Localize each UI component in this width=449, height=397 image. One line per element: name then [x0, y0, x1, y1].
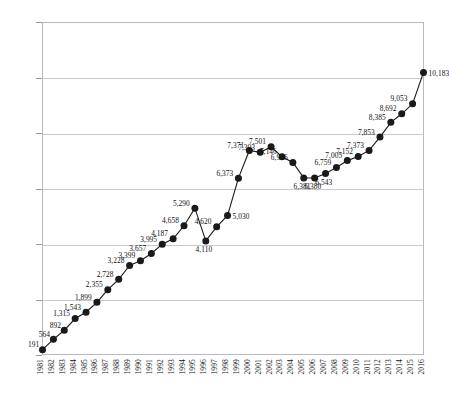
data-point-marker: [420, 69, 427, 76]
data-point-marker: [115, 276, 122, 283]
data-point-label: 5,290: [173, 200, 190, 207]
data-point-marker: [170, 235, 177, 242]
y-tick-mark: [36, 355, 42, 356]
data-point-label: 2,728: [97, 271, 114, 278]
x-tick-label: 2016: [418, 359, 429, 375]
data-point-marker: [148, 250, 155, 257]
data-point-marker: [126, 262, 133, 269]
data-point-marker: [289, 159, 296, 166]
data-point-label: 5,030: [233, 213, 250, 220]
data-point-label: 1,899: [75, 294, 92, 301]
data-point-marker: [137, 257, 144, 264]
data-point-label: 10,183: [429, 70, 449, 77]
data-point-marker: [398, 110, 405, 117]
data-point-label: 892: [50, 322, 61, 329]
data-point-label: 6,936: [271, 154, 288, 161]
data-point-marker: [355, 153, 362, 160]
data-point-marker: [61, 327, 68, 334]
data-point-label: 4,658: [162, 217, 179, 224]
data-point-label: 9,053: [391, 95, 408, 102]
data-point-label: 2,355: [86, 281, 103, 288]
data-point-label: 3,657: [129, 245, 146, 252]
data-point-label: 4,187: [151, 230, 168, 237]
data-point-label: 6,373: [216, 170, 233, 177]
data-point-label: 4,620: [195, 218, 212, 225]
data-point-marker: [104, 286, 111, 293]
data-point-marker: [213, 223, 220, 230]
data-series: [42, 22, 424, 355]
data-point-label: 8,692: [380, 105, 397, 112]
data-point-marker: [50, 336, 57, 343]
data-point-label: 8,385: [369, 114, 386, 121]
data-point-label: 4,110: [196, 246, 213, 253]
x-tick-label: 1984: [70, 359, 81, 375]
data-point-label: 7,853: [358, 129, 375, 136]
x-tick-label: 1993: [168, 359, 179, 375]
data-point-label: 3,399: [118, 252, 135, 259]
data-point-marker: [93, 299, 100, 306]
data-point-marker: [39, 346, 46, 353]
chart-title: [0, 0, 436, 5]
data-point-label: 564: [39, 331, 50, 338]
data-point-marker: [235, 175, 242, 182]
data-point-label: 6,759: [314, 159, 331, 166]
data-point-marker: [376, 134, 383, 141]
data-point-marker: [224, 212, 231, 219]
data-point-marker: [181, 222, 188, 229]
data-point-label: 191: [28, 341, 39, 348]
data-point-label: 6,543: [315, 179, 332, 186]
data-point-label: 7,501: [249, 138, 266, 145]
data-point-label: 1,543: [64, 304, 81, 311]
data-point-marker: [202, 237, 209, 244]
data-point-marker: [344, 157, 351, 164]
data-point-marker: [72, 315, 79, 322]
data-point-marker: [387, 119, 394, 126]
data-point-marker: [333, 164, 340, 171]
data-point-marker: [322, 170, 329, 177]
data-point-marker: [159, 241, 166, 248]
data-point-marker: [300, 174, 307, 181]
data-point-label: 7,373: [347, 142, 364, 149]
data-point-marker: [366, 147, 373, 154]
data-point-marker: [191, 205, 198, 212]
data-point-marker: [83, 309, 90, 316]
data-point-marker: [409, 100, 416, 107]
